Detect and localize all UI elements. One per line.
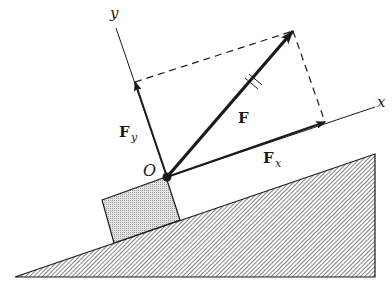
dashed-line-f-to-fx xyxy=(293,31,325,122)
svg-text:F: F xyxy=(263,149,274,167)
force-x-label: F x xyxy=(263,149,282,170)
x-axis-label: x xyxy=(377,93,386,111)
incline-wedge xyxy=(15,154,375,277)
svg-text:y: y xyxy=(130,131,138,144)
y-axis-label: y xyxy=(109,4,119,22)
svg-text:x: x xyxy=(275,157,282,170)
force-y-label: F y xyxy=(119,123,138,144)
svg-text:F: F xyxy=(119,123,130,141)
origin-label: O xyxy=(143,161,156,180)
origin-point xyxy=(163,173,172,182)
force-diagram: y x O F F x F y xyxy=(0,0,392,281)
force-label: F xyxy=(238,109,249,127)
